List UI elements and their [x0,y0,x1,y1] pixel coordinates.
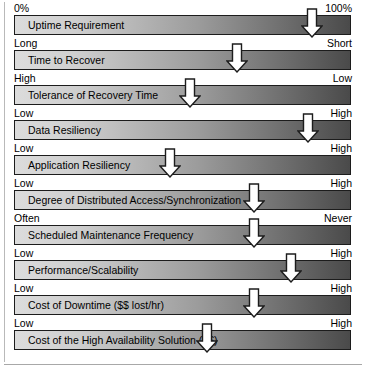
slider-track-label: Performance/Scalability [28,264,138,276]
slider-track-label: Data Resiliency [28,124,101,136]
slider-marker-arrow-icon[interactable] [159,148,181,178]
slider-track[interactable]: Data Resiliency [14,120,351,140]
slider-row: LongShortTime to Recover [0,37,366,72]
slider-min-label: Often [14,212,40,224]
figure-bottom-rule [4,364,362,365]
high-availability-slider-diagram: 0%100%Uptime RequirementLongShortTime to… [0,0,366,374]
slider-track[interactable]: Time to Recover [14,50,351,70]
slider-track-label: Scheduled Maintenance Frequency [28,229,193,241]
slider-track[interactable]: Tolerance of Recovery Time [14,85,351,105]
slider-track-label: Uptime Requirement [28,19,124,31]
slider-track-label: Application Resiliency [28,159,130,171]
slider-min-label: Long [14,37,37,49]
slider-marker-arrow-icon[interactable] [243,288,265,318]
slider-row: LowHighCost of Downtime ($$ lost/hr) [0,282,366,317]
slider-track-label: Cost of the High Availability Solution (… [28,334,218,346]
slider-min-label: High [14,72,36,84]
slider-min-label: Low [14,107,33,119]
slider-track[interactable]: Cost of the High Availability Solution (… [14,330,351,350]
slider-track-label: Degree of Distributed Access/Synchroniza… [28,194,241,206]
slider-max-label: High [330,282,352,294]
slider-max-label: High [330,107,352,119]
slider-min-label: 0% [14,2,29,14]
slider-marker-arrow-icon[interactable] [179,78,201,108]
slider-marker-arrow-icon[interactable] [280,253,302,283]
slider-max-label: High [330,247,352,259]
slider-max-label: Never [324,212,352,224]
slider-max-label: Low [333,72,352,84]
slider-marker-arrow-icon[interactable] [243,183,265,213]
slider-marker-arrow-icon[interactable] [301,8,323,38]
slider-row: OftenNeverScheduled Maintenance Frequenc… [0,212,366,247]
slider-marker-arrow-icon[interactable] [243,218,265,248]
slider-max-label: 100% [325,2,352,14]
slider-row: LowHighCost of the High Availability Sol… [0,317,366,352]
slider-min-label: Low [14,142,33,154]
slider-row: LowHighData Resiliency [0,107,366,142]
slider-max-label: High [330,142,352,154]
slider-min-label: Low [14,247,33,259]
slider-track[interactable]: Scheduled Maintenance Frequency [14,225,351,245]
slider-min-label: Low [14,317,33,329]
slider-track-label: Tolerance of Recovery Time [28,89,158,101]
slider-row: 0%100%Uptime Requirement [0,2,366,37]
slider-row: LowHighApplication Resiliency [0,142,366,177]
slider-marker-arrow-icon[interactable] [297,113,319,143]
slider-track[interactable]: Cost of Downtime ($$ lost/hr) [14,295,351,315]
slider-track[interactable]: Uptime Requirement [14,15,351,35]
slider-max-label: High [330,177,352,189]
slider-min-label: Low [14,282,33,294]
slider-row: LowHighDegree of Distributed Access/Sync… [0,177,366,212]
slider-track-label: Time to Recover [28,54,105,66]
slider-min-label: Low [14,177,33,189]
slider-max-label: High [330,317,352,329]
slider-track-label: Cost of Downtime ($$ lost/hr) [28,299,164,311]
slider-row: HighLowTolerance of Recovery Time [0,72,366,107]
slider-track[interactable]: Application Resiliency [14,155,351,175]
slider-max-label: Short [327,37,352,49]
slider-marker-arrow-icon[interactable] [226,43,248,73]
slider-row: LowHighPerformance/Scalability [0,247,366,282]
slider-track[interactable]: Performance/Scalability [14,260,351,280]
slider-track[interactable]: Degree of Distributed Access/Synchroniza… [14,190,351,210]
slider-row-list: 0%100%Uptime RequirementLongShortTime to… [0,0,366,362]
